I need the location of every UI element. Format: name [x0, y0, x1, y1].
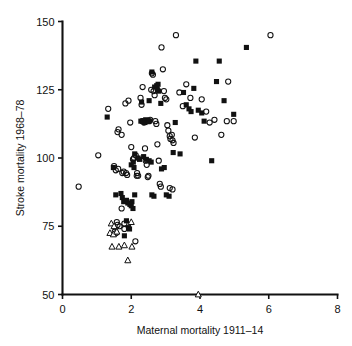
data-point-filled-square [191, 86, 196, 91]
data-point-open-triangle [129, 243, 135, 249]
data-point-open-circle [212, 117, 217, 122]
data-point-open-circle [128, 120, 133, 125]
data-point-open-triangle [116, 243, 122, 249]
data-point-filled-square [147, 98, 152, 103]
data-point-open-circle [155, 142, 160, 147]
data-point-open-triangle [125, 257, 131, 263]
data-markers-layer [76, 33, 273, 297]
plot-axes [63, 22, 338, 295]
x-axis-ticks: 02468 [59, 295, 340, 315]
data-point-filled-square [167, 194, 172, 199]
y-tick-label: 150 [36, 16, 54, 28]
x-tick-label: 2 [128, 303, 134, 315]
data-point-filled-square [189, 109, 194, 114]
data-point-filled-square [178, 151, 183, 156]
y-axis-title: Stroke mortality 1968–78 [14, 99, 26, 216]
data-point-open-circle [96, 153, 101, 158]
data-point-filled-square [158, 101, 163, 106]
data-point-filled-square [127, 226, 132, 231]
data-point-open-circle [226, 79, 231, 84]
data-point-open-circle [188, 95, 193, 100]
data-point-filled-square [131, 160, 136, 165]
data-point-open-circle [164, 97, 169, 102]
data-point-open-triangle [121, 242, 127, 248]
data-point-open-triangle [128, 219, 134, 225]
data-point-filled-square [111, 165, 116, 170]
data-point-filled-square [131, 165, 136, 170]
x-tick-label: 6 [266, 303, 272, 315]
data-point-filled-square [124, 218, 129, 223]
data-point-open-circle [159, 45, 164, 50]
data-point-open-circle [142, 146, 147, 151]
data-point-open-circle [119, 206, 124, 211]
data-point-filled-square [209, 158, 214, 163]
x-tick-label: 4 [197, 303, 203, 315]
x-axis-title: Maternal mortality 1911–14 [137, 324, 264, 336]
data-point-filled-square [151, 194, 156, 199]
data-point-filled-square [244, 45, 249, 50]
data-point-open-circle [184, 82, 189, 87]
data-point-open-circle [156, 158, 161, 163]
series-open-triangle [107, 219, 201, 297]
y-tick-label: 100 [36, 152, 54, 164]
data-point-open-circle [268, 33, 273, 38]
data-point-open-triangle [109, 243, 115, 249]
data-point-filled-square [173, 120, 178, 125]
data-point-filled-square [202, 119, 207, 124]
data-point-open-circle [140, 84, 145, 89]
data-point-open-circle [192, 135, 197, 140]
data-point-open-circle [161, 89, 166, 94]
data-point-filled-square [162, 165, 167, 170]
series-open-circle [76, 33, 273, 244]
data-point-filled-square [156, 82, 161, 87]
x-tick-label: 8 [334, 303, 340, 315]
data-point-open-circle [129, 144, 134, 149]
data-point-filled-square [156, 89, 161, 94]
data-point-filled-square [193, 59, 198, 64]
scatter-plot-canvas: 5075100125150 02468 Maternal mortality 1… [0, 0, 352, 346]
data-point-filled-square [214, 79, 219, 84]
data-point-open-circle [224, 119, 229, 124]
series-filled-square [105, 45, 249, 238]
data-point-filled-square [171, 150, 176, 155]
data-point-open-circle [162, 95, 167, 100]
data-point-open-circle [219, 132, 224, 137]
data-point-filled-square [149, 69, 154, 74]
data-point-filled-square [231, 112, 236, 117]
data-point-filled-square [132, 192, 137, 197]
data-point-filled-square [130, 206, 135, 211]
data-point-filled-square [105, 115, 110, 120]
y-tick-label: 125 [36, 84, 54, 96]
data-point-filled-square [147, 119, 152, 124]
data-point-open-circle [231, 119, 236, 124]
data-point-open-circle [160, 67, 165, 72]
data-point-open-circle [165, 123, 170, 128]
y-tick-label: 50 [42, 289, 54, 301]
data-point-open-circle [204, 109, 209, 114]
data-point-filled-square [139, 99, 144, 104]
data-point-open-circle [119, 132, 124, 137]
data-point-filled-square [129, 199, 134, 204]
data-point-open-circle [133, 239, 138, 244]
data-point-open-circle [173, 33, 178, 38]
data-point-filled-square [222, 98, 227, 103]
data-point-open-circle [106, 106, 111, 111]
x-tick-label: 0 [59, 303, 65, 315]
data-point-filled-square [217, 59, 222, 64]
data-point-filled-square [113, 192, 118, 197]
data-point-open-circle [207, 120, 212, 125]
y-tick-label: 75 [42, 220, 54, 232]
data-point-open-circle [199, 97, 204, 102]
data-point-filled-square [122, 233, 127, 238]
data-point-open-circle [76, 184, 81, 189]
data-point-filled-square [149, 160, 154, 165]
scatter-plot-figure: 5075100125150 02468 Maternal mortality 1… [0, 0, 352, 346]
data-point-filled-square [181, 90, 186, 95]
y-axis-ticks: 5075100125150 [36, 16, 62, 301]
data-point-filled-square [199, 110, 204, 115]
